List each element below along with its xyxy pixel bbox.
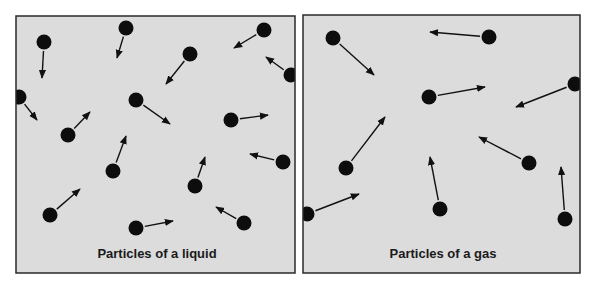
particle-dot [106,164,121,179]
particle-dot [119,21,134,36]
particle-dot [300,207,315,222]
particle-dot [43,208,58,223]
particle-dot [12,90,27,105]
particle-dot [237,216,252,231]
particle-dot [522,156,537,171]
particle-dot [129,221,144,236]
particle-dot [482,30,497,45]
particle-dot [339,161,354,176]
particle-dot [37,35,52,50]
particle-dot [257,23,272,38]
particle-dot [276,155,291,170]
particle-dot [188,179,203,194]
liquid-panel-background [16,16,295,273]
particle-dot [61,128,76,143]
particle-dot [183,47,198,62]
particle-dot [433,202,448,217]
gas-caption: Particles of a gas [390,246,497,261]
particle-dot [284,68,299,83]
particle-dot [129,93,144,108]
particle-dot [558,212,573,227]
liquid-caption: Particles of a liquid [97,246,216,261]
gas-panel: Particles of a gas [300,15,583,273]
liquid-panel: Particles of a liquid [12,16,299,273]
particles-diagram: Particles of a liquid Particles of a gas [0,0,593,288]
gas-panel-background [303,15,580,273]
particle-dot [422,90,437,105]
particle-dot [224,113,239,128]
particle-dot [326,31,341,46]
